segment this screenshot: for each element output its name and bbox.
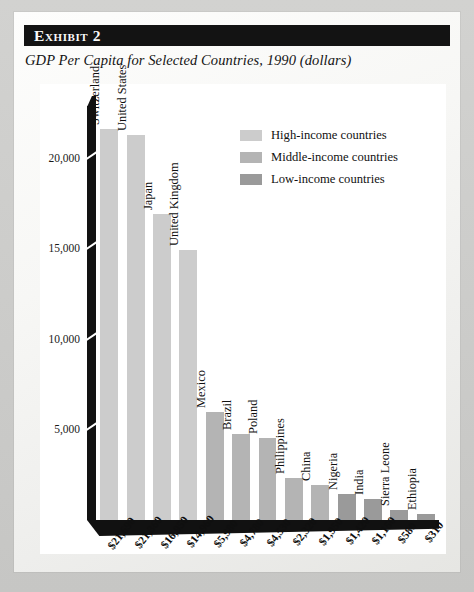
legend-label: Middle-income countries (271, 150, 398, 165)
bar-country-label: Sierra Leone (379, 442, 394, 506)
bar: Mexico (206, 96, 224, 520)
bar-country-label: Ethiopia (405, 468, 420, 510)
legend-label: High-income countries (271, 128, 387, 143)
bar-fill (338, 494, 356, 520)
legend-swatch (240, 130, 262, 141)
chart-subtitle: GDP Per Capita for Selected Countries, 1… (25, 52, 351, 69)
value-labels: $21,690$21,360$16,950$14,960$5,980$4,780… (96, 536, 439, 537)
exhibit-label: Exhibit 2 (34, 27, 101, 44)
paper-sheet: Exhibit 2 GDP Per Capita for Selected Co… (14, 12, 460, 572)
bar: United Kingdom (179, 96, 197, 520)
legend-label: Low-income countries (271, 172, 385, 187)
bar: United States (127, 96, 145, 520)
bar-country-label: Philippines (273, 418, 288, 474)
legend-item: Low-income countries (240, 172, 398, 187)
bar-country-label: United Kingdom (168, 162, 183, 246)
bar-fill (311, 485, 329, 520)
y-axis-tick-label: 10,000 (36, 333, 80, 345)
bar-fill (417, 514, 435, 520)
bar-country-label: United States (115, 64, 130, 130)
bar-country-label: Poland (247, 400, 262, 434)
legend-swatch (240, 152, 262, 163)
bar-fill (100, 129, 118, 520)
bar-country-label: Japan (141, 182, 156, 210)
bar: Switzerland (100, 96, 118, 520)
legend-item: Middle-income countries (240, 150, 398, 165)
bar-fill (285, 478, 303, 520)
bar-country-label: Switzerland (88, 65, 103, 124)
bar-country-label: India (352, 470, 367, 495)
page-background: Exhibit 2 GDP Per Capita for Selected Co… (0, 0, 474, 592)
chart-panel: 5,00010,00015,00020,000 SwitzerlandUnite… (40, 84, 446, 554)
chart-legend: High-income countriesMiddle-income count… (240, 128, 398, 194)
bar-fill (153, 214, 171, 520)
y-axis-tick-label: 20,000 (36, 152, 80, 164)
bar-country-label: Nigeria (326, 453, 341, 490)
y-axis-tick-label: 5,000 (36, 423, 80, 435)
bar: Ethiopia (417, 96, 435, 520)
bar-country-label: Mexico (194, 370, 209, 408)
bar-country-label: Brazil (220, 399, 235, 429)
y-axis-tick-label: 15,000 (36, 242, 80, 254)
bar: Japan (153, 96, 171, 520)
legend-item: High-income countries (240, 128, 398, 143)
legend-swatch (240, 174, 262, 185)
y-axis-wall (87, 106, 96, 520)
bar-country-label: China (300, 451, 315, 481)
bar-fill (232, 434, 250, 520)
